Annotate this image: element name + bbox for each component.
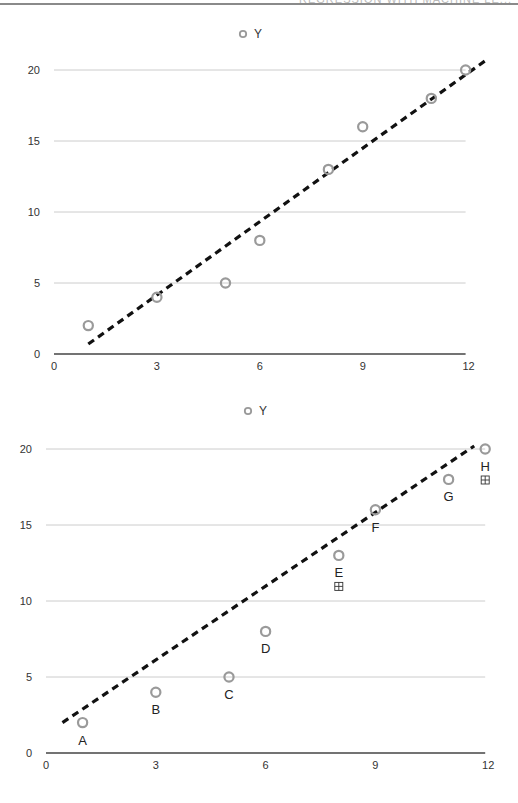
x-tick-label: 12 <box>462 360 474 372</box>
running-header: REGRESSION WITH MACHINE LE... <box>299 0 512 5</box>
x-tick-label: 3 <box>153 759 159 771</box>
point-label: A <box>78 733 87 748</box>
data-point <box>334 551 343 560</box>
y-tick-label: 0 <box>26 747 32 759</box>
point-label: F <box>371 520 379 535</box>
data-point <box>84 321 93 330</box>
y-tick-label: 10 <box>20 595 32 607</box>
data-point <box>324 165 333 174</box>
point-label: G <box>444 489 454 504</box>
data-point <box>78 718 87 727</box>
x-tick-label: 12 <box>482 759 494 771</box>
legend-label: Y <box>259 404 267 418</box>
y-tick-label: 10 <box>28 206 40 218</box>
x-tick-label: 9 <box>360 360 366 372</box>
legend-marker-icon <box>245 408 251 414</box>
legend-label: Y <box>254 27 262 41</box>
x-tick-label: 3 <box>154 360 160 372</box>
data-point <box>255 236 264 245</box>
x-tick-label: 9 <box>372 759 378 771</box>
data-point <box>358 122 367 131</box>
y-tick-label: 15 <box>28 135 40 147</box>
y-tick-label: 5 <box>26 671 32 683</box>
y-tick-label: 20 <box>20 443 32 455</box>
point-label: H <box>481 459 490 474</box>
legend-marker-icon <box>240 31 246 37</box>
data-point <box>261 627 270 636</box>
boxed-plus-icon <box>481 476 489 484</box>
y-tick-label: 5 <box>34 277 40 289</box>
point-label: D <box>261 641 270 656</box>
scatter-chart-bottom-labeled: Y05101520036912ABCDEFGH <box>0 395 518 803</box>
trendline-dashed <box>88 60 486 344</box>
y-tick-label: 15 <box>20 519 32 531</box>
data-point <box>151 688 160 697</box>
data-point <box>444 475 453 484</box>
point-label: C <box>224 687 233 702</box>
x-tick-label: 6 <box>263 759 269 771</box>
boxed-plus-icon <box>335 582 343 590</box>
trendline-dashed <box>62 446 474 723</box>
y-tick-label: 20 <box>28 64 40 76</box>
y-tick-label: 0 <box>34 348 40 360</box>
x-tick-label: 6 <box>257 360 263 372</box>
scatter-chart-top: Y05101520036912 <box>0 20 518 380</box>
point-label: B <box>151 702 160 717</box>
x-tick-label: 0 <box>43 759 49 771</box>
x-tick-label: 0 <box>51 360 57 372</box>
point-label: E <box>334 565 343 580</box>
